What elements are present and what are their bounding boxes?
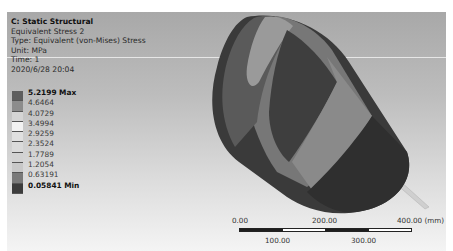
legend-swatch bbox=[12, 153, 23, 163]
result-info: C: Static Structural Equivalent Stress 2… bbox=[11, 17, 146, 75]
scale-segment bbox=[368, 228, 412, 232]
result-date: 2020/6/28 20:04 bbox=[11, 65, 146, 75]
result-time: Time: 1 bbox=[11, 55, 146, 65]
result-unit: Unit: MPa bbox=[11, 46, 146, 56]
legend-value-label: 1.2054 bbox=[28, 160, 79, 170]
graphics-viewport[interactable]: C: Static Structural Equivalent Stress 2… bbox=[7, 12, 446, 251]
scale-label: 300.00 bbox=[351, 236, 376, 245]
scale-label: 400.00 (mm) bbox=[397, 216, 444, 225]
scale-segment bbox=[282, 228, 326, 232]
legend-value-label: 4.0729 bbox=[28, 109, 79, 119]
legend-value-label: 0.63191 bbox=[28, 170, 79, 180]
legend-value-label: 3.4994 bbox=[28, 119, 79, 129]
scale-label: 200.00 bbox=[312, 216, 337, 225]
legend-value-label: 2.9259 bbox=[28, 129, 79, 139]
legend-value-label: 4.6464 bbox=[28, 98, 79, 108]
result-type: Type: Equivalent (von-Mises) Stress bbox=[11, 36, 146, 46]
legend-value-label: 2.3524 bbox=[28, 139, 79, 149]
result-name: Equivalent Stress 2 bbox=[11, 27, 146, 37]
legend-labels: 5.2199 Max4.64644.07293.49942.92592.3524… bbox=[28, 88, 79, 191]
legend-swatch bbox=[12, 112, 23, 122]
scale-label: 100.00 bbox=[265, 236, 290, 245]
legend-swatch bbox=[12, 173, 23, 183]
legend-swatch bbox=[12, 101, 23, 111]
legend-swatch bbox=[12, 184, 23, 194]
legend-color-bar bbox=[12, 91, 23, 194]
legend-min-label: 0.05841 Min bbox=[28, 181, 79, 191]
legend-max-label: 5.2199 Max bbox=[28, 88, 79, 98]
legend-swatch bbox=[12, 132, 23, 142]
legend-swatch bbox=[12, 163, 23, 173]
legend-swatch bbox=[12, 142, 23, 152]
scale-label: 0.00 bbox=[232, 216, 248, 225]
legend-swatch bbox=[12, 91, 23, 101]
analysis-title: C: Static Structural bbox=[11, 17, 146, 27]
legend-value-label: 1.7789 bbox=[28, 150, 79, 160]
scale-ruler: 0.00 200.00 400.00 (mm) 100.00 300.00 bbox=[232, 212, 432, 251]
scale-segment bbox=[239, 228, 283, 232]
legend-swatch bbox=[12, 122, 23, 132]
scale-segment bbox=[325, 228, 369, 232]
cylinder bbox=[212, 15, 409, 213]
